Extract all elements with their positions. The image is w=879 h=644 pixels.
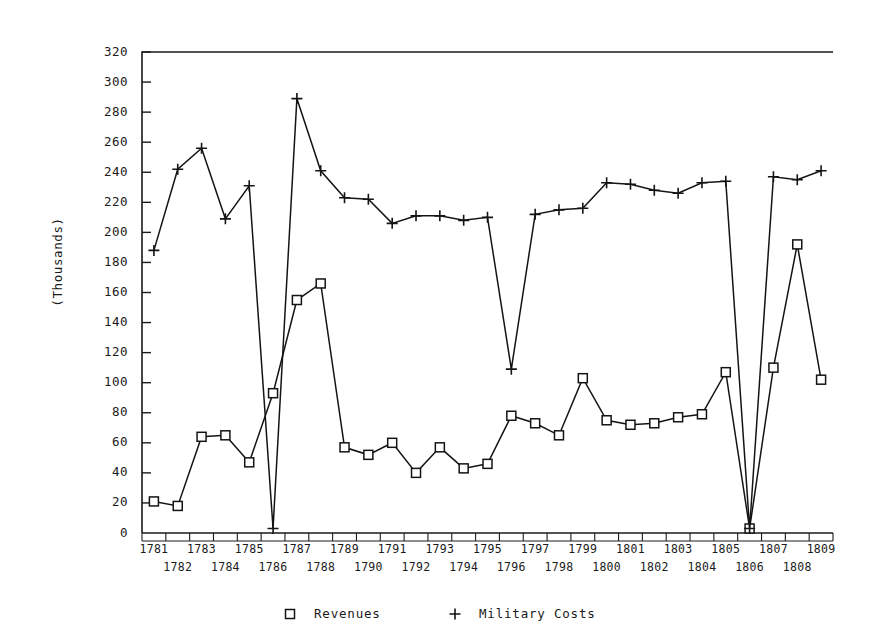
- x-tick-label: 1802: [640, 560, 669, 574]
- y-tick-label: 200: [104, 224, 128, 239]
- data-point-plus: [506, 364, 517, 375]
- x-tick-label: 1808: [783, 560, 812, 574]
- data-point-square: [412, 468, 421, 477]
- y-tick-label: 260: [104, 134, 128, 149]
- data-point-plus: [148, 245, 159, 256]
- data-point-square: [197, 432, 206, 441]
- x-tick-label: 1800: [592, 560, 621, 574]
- x-tick-label: 1786: [259, 560, 288, 574]
- y-tick-label: 160: [104, 284, 128, 299]
- data-point-plus: [673, 188, 684, 199]
- data-point-plus: [411, 210, 422, 221]
- x-tick-label: 1790: [354, 560, 383, 574]
- data-point-plus: [220, 213, 231, 224]
- data-point-square: [626, 420, 635, 429]
- x-tick-label: 1785: [235, 542, 264, 556]
- x-tick-label: 1801: [616, 542, 645, 556]
- data-point-plus: [720, 176, 731, 187]
- legend-label: Military Costs: [479, 606, 596, 621]
- x-tick-label: 1793: [425, 542, 454, 556]
- x-tick-label: 1787: [282, 542, 311, 556]
- data-point-plus: [482, 212, 493, 223]
- data-point-square: [245, 458, 254, 467]
- x-tick-label: 1809: [807, 542, 836, 556]
- data-point-square: [507, 411, 516, 420]
- x-axis-ticks: 1781178217831784178517861787178817891790…: [139, 533, 835, 574]
- data-point-square: [578, 374, 587, 383]
- x-tick-label: 1784: [211, 560, 240, 574]
- data-point-plus: [649, 185, 660, 196]
- y-tick-label: 300: [104, 74, 128, 89]
- y-tick-label: 100: [104, 374, 128, 389]
- data-point-square: [769, 363, 778, 372]
- y-tick-label: 120: [104, 344, 128, 359]
- x-tick-label: 1794: [449, 560, 478, 574]
- x-tick-label: 1783: [187, 542, 216, 556]
- data-point-plus: [696, 177, 707, 188]
- data-point-square: [531, 419, 540, 428]
- data-point-plus: [244, 180, 255, 191]
- chart-legend: RevenuesMilitary Costs: [286, 606, 596, 621]
- series-line-revenues: [154, 244, 821, 528]
- chart-container: (Thousands) 0204060801001201401601802002…: [0, 0, 879, 644]
- series-layer: [148, 93, 826, 534]
- x-tick-label: 1781: [139, 542, 168, 556]
- data-point-square: [173, 501, 182, 510]
- y-tick-label: 0: [120, 525, 128, 540]
- data-point-square: [459, 464, 468, 473]
- y-tick-label: 140: [104, 314, 128, 329]
- data-point-plus: [530, 209, 541, 220]
- data-point-plus: [792, 174, 803, 185]
- data-point-plus: [816, 165, 827, 176]
- x-tick-label: 1795: [473, 542, 502, 556]
- x-tick-label: 1798: [545, 560, 574, 574]
- x-tick-label: 1806: [735, 560, 764, 574]
- x-tick-label: 1807: [759, 542, 788, 556]
- y-axis-ticks: 0204060801001201401601802002202402602803…: [104, 44, 151, 540]
- x-tick-label: 1803: [664, 542, 693, 556]
- data-point-square: [149, 497, 158, 506]
- y-tick-label: 280: [104, 104, 128, 119]
- data-point-plus: [625, 179, 636, 190]
- y-axis-title-text: (Thousands): [50, 217, 65, 306]
- x-tick-label: 1799: [568, 542, 597, 556]
- data-point-plus: [553, 204, 564, 215]
- data-point-plus: [291, 93, 302, 104]
- legend-label: Revenues: [314, 606, 381, 621]
- y-tick-label: 60: [112, 434, 128, 449]
- data-point-square: [721, 368, 730, 377]
- y-tick-label: 320: [104, 44, 128, 59]
- data-point-square: [292, 296, 301, 305]
- data-point-plus: [434, 210, 445, 221]
- y-tick-label: 40: [112, 464, 128, 479]
- data-point-square: [364, 450, 373, 459]
- data-point-square: [435, 443, 444, 452]
- data-point-square: [793, 240, 802, 249]
- data-point-square: [340, 443, 349, 452]
- x-tick-label: 1788: [306, 560, 335, 574]
- x-tick-label: 1805: [711, 542, 740, 556]
- y-axis-title: (Thousands): [50, 217, 65, 306]
- x-tick-label: 1782: [163, 560, 192, 574]
- data-point-square: [697, 410, 706, 419]
- x-tick-label: 1792: [402, 560, 431, 574]
- data-point-square: [554, 431, 563, 440]
- data-point-square: [221, 431, 230, 440]
- y-tick-label: 80: [112, 404, 128, 419]
- data-point-square: [674, 413, 683, 422]
- data-point-square: [269, 389, 278, 398]
- y-tick-label: 180: [104, 254, 128, 269]
- legend-plus-icon: [450, 609, 461, 620]
- data-point-square: [602, 416, 611, 425]
- data-point-plus: [768, 171, 779, 182]
- x-tick-label: 1797: [521, 542, 550, 556]
- x-tick-label: 1804: [687, 560, 716, 574]
- data-point-square: [316, 279, 325, 288]
- x-tick-label: 1789: [330, 542, 359, 556]
- y-tick-label: 220: [104, 194, 128, 209]
- x-tick-label: 1791: [378, 542, 407, 556]
- x-tick-label: 1796: [497, 560, 526, 574]
- data-point-square: [817, 375, 826, 384]
- legend-square-icon: [286, 610, 295, 619]
- data-point-square: [650, 419, 659, 428]
